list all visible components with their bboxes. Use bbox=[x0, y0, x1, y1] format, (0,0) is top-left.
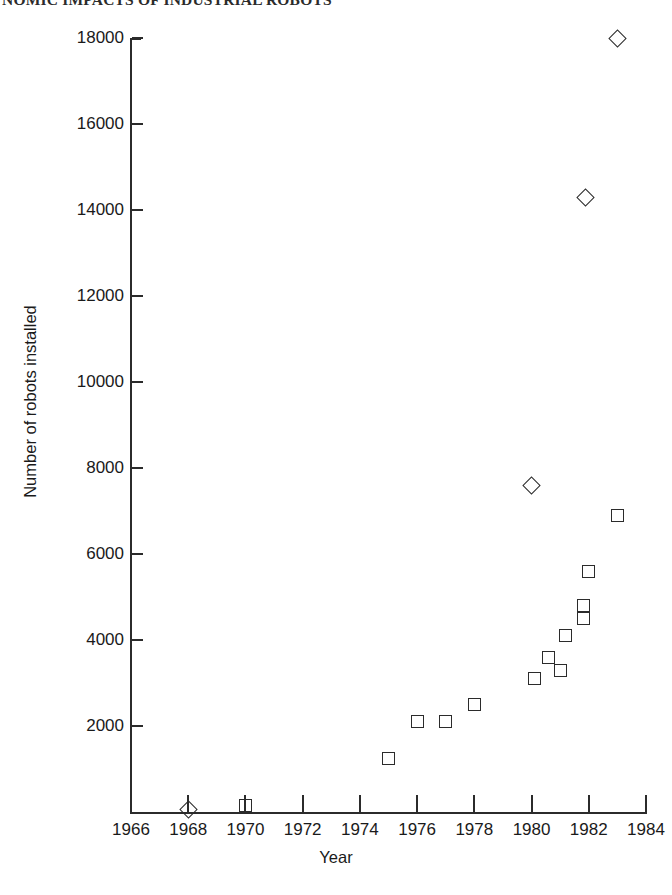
y-tick-label-8000: 8000 bbox=[38, 459, 124, 476]
x-tick-1976 bbox=[416, 795, 418, 812]
y-tick-18000 bbox=[132, 37, 143, 39]
y-tick-14000 bbox=[132, 209, 143, 211]
y-tick-label-16000: 16000 bbox=[38, 115, 124, 132]
y-tick-label-wrap: 16000 bbox=[38, 115, 124, 132]
x-tick-1980 bbox=[531, 795, 533, 812]
y-tick-label-4000: 4000 bbox=[38, 631, 124, 648]
y-tick-label-wrap: 18000 bbox=[38, 29, 124, 46]
data-point-square bbox=[554, 664, 567, 677]
data-point-square bbox=[382, 752, 395, 765]
y-axis-title: Number of robots installed bbox=[21, 252, 40, 552]
x-tick-1982 bbox=[588, 795, 590, 812]
x-tick-1974 bbox=[359, 795, 361, 812]
y-tick-label-wrap: 12000 bbox=[38, 287, 124, 304]
y-tick-16000 bbox=[132, 123, 143, 125]
data-point-diamond bbox=[179, 800, 197, 818]
y-tick-label-wrap: 2000 bbox=[38, 717, 124, 734]
data-point-square bbox=[542, 651, 555, 664]
y-tick-label-18000: 18000 bbox=[38, 29, 124, 46]
y-tick-label-wrap: 4000 bbox=[38, 631, 124, 648]
data-point-square bbox=[411, 715, 424, 728]
x-tick-1978 bbox=[473, 795, 475, 812]
data-point-square bbox=[468, 698, 481, 711]
data-point-square bbox=[577, 599, 590, 612]
y-tick-2000 bbox=[132, 725, 143, 727]
data-point-square bbox=[439, 715, 452, 728]
y-tick-8000 bbox=[132, 467, 143, 469]
y-tick-label-2000: 2000 bbox=[38, 717, 124, 734]
y-axis-line bbox=[130, 38, 132, 814]
x-axis-title: Year bbox=[0, 848, 672, 867]
x-tick-1984 bbox=[645, 795, 647, 812]
y-tick-label-wrap: 14000 bbox=[38, 201, 124, 218]
data-point-square bbox=[559, 629, 572, 642]
y-tick-10000 bbox=[132, 381, 143, 383]
y-tick-label-14000: 14000 bbox=[38, 201, 124, 218]
data-point-square bbox=[528, 672, 541, 685]
x-axis-line bbox=[130, 812, 647, 814]
y-tick-label-10000: 10000 bbox=[38, 373, 124, 390]
y-tick-label-wrap: 6000 bbox=[38, 545, 124, 562]
scatter-chart: 2000400060008000100001200014000160001800… bbox=[0, 0, 672, 895]
data-point-square bbox=[239, 799, 252, 812]
x-tick-1972 bbox=[302, 795, 304, 812]
data-point-square bbox=[611, 509, 624, 522]
data-point-diamond bbox=[577, 188, 595, 206]
y-tick-4000 bbox=[132, 639, 143, 641]
x-tick-label-wrap: 1984 bbox=[611, 820, 672, 840]
y-tick-6000 bbox=[132, 553, 143, 555]
x-tick-label-1984: 1984 bbox=[611, 820, 672, 840]
data-point-diamond bbox=[608, 29, 626, 47]
data-point-square bbox=[582, 565, 595, 578]
data-point-square bbox=[577, 612, 590, 625]
y-tick-label-wrap: 10000 bbox=[38, 373, 124, 390]
y-tick-label-wrap: 8000 bbox=[38, 459, 124, 476]
y-tick-label-12000: 12000 bbox=[38, 287, 124, 304]
y-tick-12000 bbox=[132, 295, 143, 297]
data-point-diamond bbox=[522, 476, 540, 494]
y-tick-label-6000: 6000 bbox=[38, 545, 124, 562]
